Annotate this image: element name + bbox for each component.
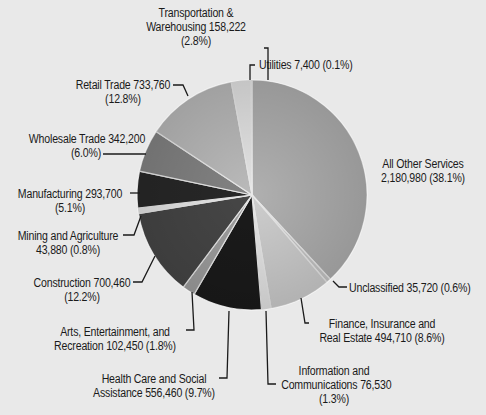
leader-finance: [301, 298, 309, 323]
pie-shading: [137, 80, 367, 310]
leader-unclassified: [333, 281, 347, 287]
label-all-other-services: All Other Services 2,180,980 (38.1%): [375, 157, 472, 185]
label-mining: Mining and Agriculture 43,880 (0.8%): [8, 229, 128, 257]
leader-health: [219, 311, 229, 378]
label-unclassified: Unclassified 35,720 (0.6%): [349, 281, 471, 295]
label-manufacturing: Manufacturing 293,700 (5.1%): [8, 187, 131, 215]
leader-arts: [186, 292, 194, 330]
label-arts: Arts, Entertainment, and Recreation 102,…: [51, 325, 179, 353]
pie-slices: [137, 80, 367, 310]
label-finance: Finance, Insurance and Real Estate 494,7…: [316, 317, 448, 345]
label-construction: Construction 700,460 (12.2%): [26, 276, 139, 304]
label-transportation: Transportation & Warehousing 158,222 (2.…: [130, 6, 262, 48]
label-retail: Retail Trade 733,760 (12.8%): [70, 78, 176, 106]
label-utilities: Utilities 7,400 (0.1%): [259, 58, 353, 72]
label-wholesale: Wholesale Trade 342,200 (6.0%): [29, 132, 143, 160]
leader-information: [266, 311, 276, 384]
label-information: Information and Communications 76,530 (1…: [281, 364, 387, 406]
label-health: Health Care and Social Assistance 556,46…: [92, 372, 215, 400]
leader-utilities: [250, 65, 255, 80]
